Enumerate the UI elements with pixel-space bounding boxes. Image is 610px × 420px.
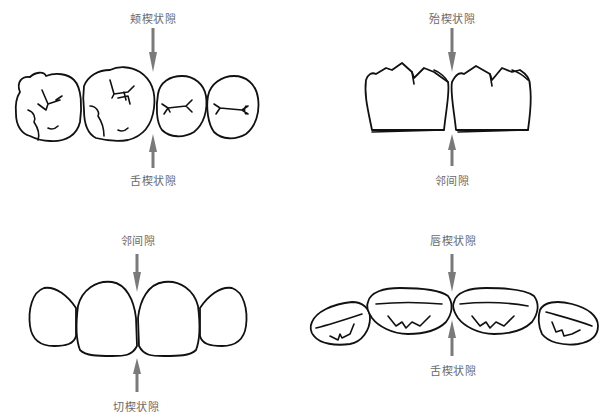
arrow-up-icon (448, 134, 456, 166)
arrow-up-icon (133, 358, 141, 392)
arrow-up-icon (448, 320, 456, 356)
arrow-down-icon (133, 254, 141, 292)
anterior-labial-view (30, 254, 247, 392)
arrow-down-icon (448, 254, 456, 292)
posterior-buccal-view (365, 28, 530, 166)
arrow-down-icon (149, 28, 157, 72)
posterior-occlusal-view (16, 28, 259, 168)
arrow-up-icon (149, 134, 157, 168)
arrow-down-icon (448, 28, 456, 72)
tooth-diagrams (0, 0, 610, 420)
anterior-incisal-view (311, 254, 598, 356)
